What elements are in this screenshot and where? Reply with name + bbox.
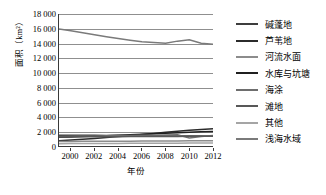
legend-color-swatch bbox=[236, 72, 258, 74]
legend-color-swatch bbox=[236, 138, 258, 140]
series-lines bbox=[59, 14, 213, 146]
legend-color-swatch bbox=[236, 23, 258, 25]
x-axis-label: 年份 bbox=[58, 164, 213, 176]
x-axis-ticks: 2000200220042006200820102012 bbox=[58, 148, 213, 162]
legend-label: 滩地 bbox=[265, 100, 283, 113]
y-axis-ticks: 02 0004 0006 0008 00010 00012 00014 0001… bbox=[14, 0, 56, 195]
x-tick-label: 2010 bbox=[181, 151, 198, 161]
y-tick-label: 2 000 bbox=[37, 127, 56, 137]
legend-label: 水库与坑塘 bbox=[265, 67, 310, 80]
legend-item[interactable]: 海涂 bbox=[236, 82, 324, 98]
legend-label: 河流水面 bbox=[265, 50, 301, 63]
x-tick-label: 2006 bbox=[133, 151, 150, 161]
y-tick-label: 10 000 bbox=[33, 68, 56, 78]
series-line bbox=[59, 143, 213, 144]
series-line bbox=[59, 136, 213, 137]
legend-item[interactable]: 滩地 bbox=[236, 98, 324, 114]
legend-item[interactable]: 浅海水域 bbox=[236, 131, 324, 147]
legend-label: 芦苇地 bbox=[265, 34, 292, 47]
x-tick-label: 2012 bbox=[205, 151, 222, 161]
legend-color-swatch bbox=[236, 122, 258, 124]
legend-label: 其他 bbox=[265, 116, 283, 129]
legend-item[interactable]: 芦苇地 bbox=[236, 32, 324, 48]
y-tick-label: 16 000 bbox=[33, 24, 56, 34]
x-tick-label: 2000 bbox=[61, 151, 78, 161]
legend-item[interactable]: 其他 bbox=[236, 114, 324, 130]
legend-label: 海涂 bbox=[265, 83, 283, 96]
y-tick-label: 0 bbox=[52, 142, 56, 152]
y-tick-label: 14 000 bbox=[33, 39, 56, 49]
series-line bbox=[59, 29, 213, 44]
legend-label: 浅海水域 bbox=[265, 132, 301, 145]
y-tick-label: 6 000 bbox=[37, 98, 56, 108]
legend-item[interactable]: 水库与坑塘 bbox=[236, 65, 324, 81]
legend-color-swatch bbox=[236, 56, 258, 58]
legend-item[interactable]: 碱蓬地 bbox=[236, 16, 324, 32]
chart-figure: 面积（km²） 02 0004 0006 0008 00010 00012 00… bbox=[0, 0, 326, 195]
x-tick-label: 2002 bbox=[85, 151, 102, 161]
legend-label: 碱蓬地 bbox=[265, 18, 292, 31]
y-tick-label: 18 000 bbox=[33, 9, 56, 19]
x-tick-label: 2008 bbox=[157, 151, 174, 161]
legend-item[interactable]: 河流水面 bbox=[236, 49, 324, 65]
y-tick-label: 12 000 bbox=[33, 53, 56, 63]
legend-color-swatch bbox=[236, 105, 258, 107]
y-tick-label: 4 000 bbox=[37, 112, 56, 122]
y-tick-label: 8 000 bbox=[37, 83, 56, 93]
x-tick-label: 2004 bbox=[109, 151, 126, 161]
chart-legend: 碱蓬地芦苇地河流水面水库与坑塘海涂滩地其他浅海水域 bbox=[236, 16, 324, 147]
plot-area bbox=[58, 14, 213, 147]
series-line bbox=[59, 141, 213, 142]
legend-color-swatch bbox=[236, 40, 258, 42]
legend-color-swatch bbox=[236, 89, 258, 91]
